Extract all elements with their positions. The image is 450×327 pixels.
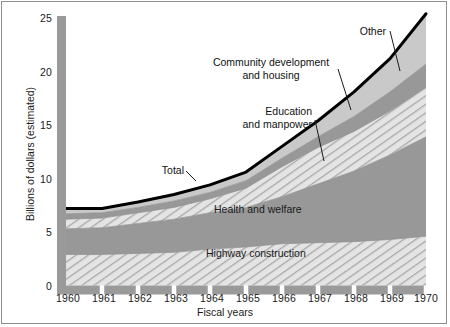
leader-total [186, 171, 196, 181]
x-tick-1964: 1964 [192, 292, 232, 304]
band-label-health: Health and welfare [214, 203, 302, 215]
x-tick-1963: 1963 [156, 292, 196, 304]
y-axis-title: Billions of dollars (estimated) [24, 54, 36, 254]
x-tick-1967: 1967 [300, 292, 340, 304]
y-tick-25: 25 [26, 12, 52, 24]
callout-other: Other [330, 25, 386, 38]
x-tick-1966: 1966 [264, 292, 304, 304]
y-axis-segment [57, 69, 66, 127]
callout-community: Community development and housing [208, 56, 334, 82]
callout-community-line2: and housing [208, 69, 334, 82]
x-tick-1960: 1960 [48, 292, 88, 304]
y-axis-segment [57, 16, 66, 74]
callout-education: Education and manpower [200, 105, 312, 131]
y-axis-segment [57, 123, 66, 181]
x-tick-1968: 1968 [336, 292, 376, 304]
y-axis-segment [57, 283, 66, 285]
y-axis-segment [57, 230, 66, 288]
callout-community-line1: Community development [208, 56, 334, 69]
callout-total: Total [126, 164, 184, 177]
x-tick-1970: 1970 [406, 292, 446, 304]
callout-education-line1: Education [200, 105, 312, 118]
area-bands [66, 14, 426, 286]
y-axis-segment [57, 176, 66, 234]
band-label-highway: Highway construction [206, 247, 306, 259]
callout-education-line2: and manpower [200, 118, 312, 131]
y-axis-bar [57, 16, 66, 288]
x-tick-1962: 1962 [120, 292, 160, 304]
x-tick-1965: 1965 [228, 292, 268, 304]
x-tick-1961: 1961 [84, 292, 124, 304]
chart-figure: 0 5 10 15 20 25 1960 1961 1962 1963 1964… [0, 0, 450, 327]
stacked-area-chart [0, 0, 450, 327]
x-axis-title: Fiscal years [0, 306, 450, 318]
y-tick-0: 0 [26, 280, 52, 292]
